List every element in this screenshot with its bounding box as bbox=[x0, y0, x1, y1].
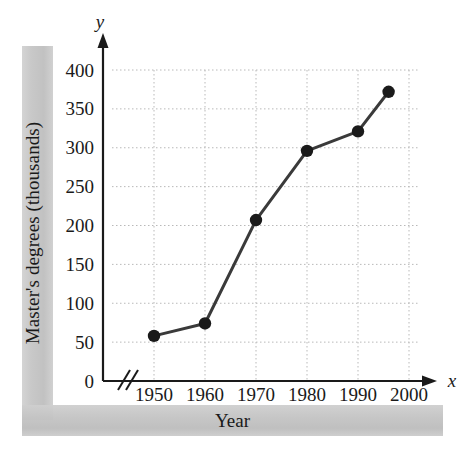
y-tick-label: 50 bbox=[75, 332, 94, 353]
data-point-marker bbox=[250, 214, 262, 226]
data-point-marker bbox=[301, 145, 313, 157]
x-tick-label: 1990 bbox=[339, 384, 377, 405]
y-tick-label: 400 bbox=[66, 60, 95, 81]
data-point-marker bbox=[199, 317, 211, 329]
data-point-marker bbox=[352, 125, 364, 137]
x-tick-label: 1980 bbox=[288, 384, 326, 405]
y-tick-label: 100 bbox=[66, 293, 95, 314]
y-axis-letter: y bbox=[94, 11, 105, 32]
y-tick-label: 300 bbox=[66, 137, 95, 158]
y-tick-label: 200 bbox=[66, 215, 95, 236]
x-tick-label: 1960 bbox=[186, 384, 224, 405]
x-tick-label: 1950 bbox=[135, 384, 173, 405]
x-tick-label: 2000 bbox=[390, 384, 428, 405]
x-tick-label: 1970 bbox=[237, 384, 275, 405]
figure-canvas: Master's degrees (thousands) Year 050100… bbox=[0, 0, 471, 451]
y-tick-label: 0 bbox=[85, 371, 95, 392]
x-axis-letter: x bbox=[447, 370, 457, 391]
line-chart: 0501001502002503003504001950196019701980… bbox=[0, 0, 471, 451]
data-point-marker bbox=[148, 330, 160, 342]
data-point-marker bbox=[382, 86, 394, 98]
y-axis-arrowhead bbox=[98, 33, 109, 48]
y-tick-label: 150 bbox=[66, 254, 95, 275]
y-tick-label: 350 bbox=[66, 98, 95, 119]
y-tick-label: 250 bbox=[66, 176, 95, 197]
